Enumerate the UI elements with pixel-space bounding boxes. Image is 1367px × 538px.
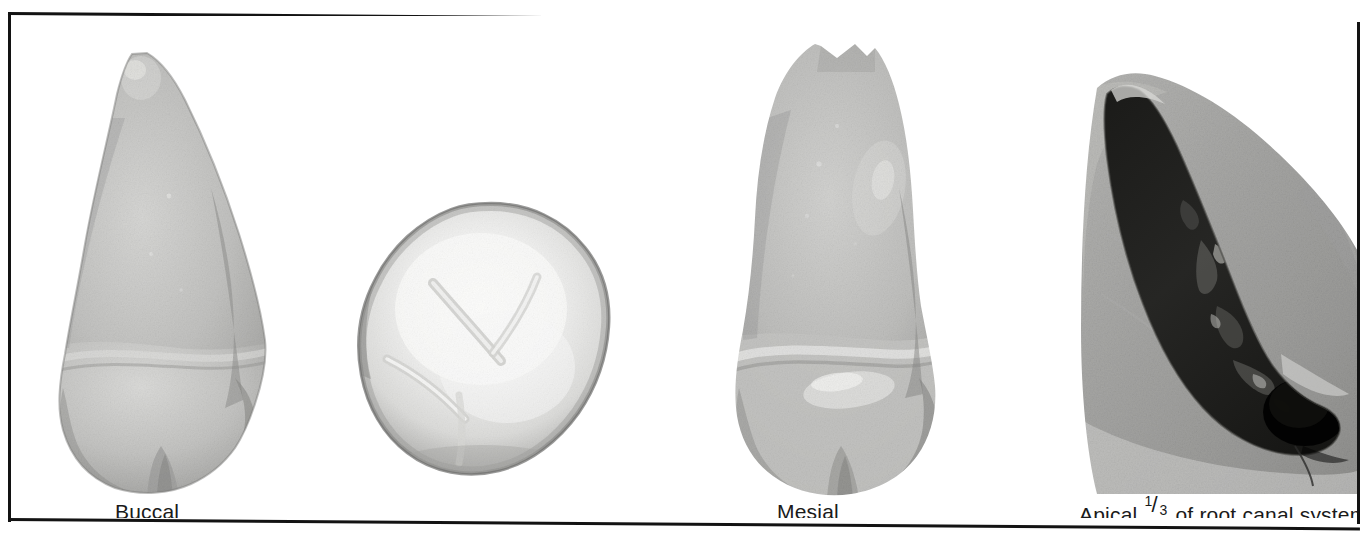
fraction-slash: /	[1151, 494, 1157, 516]
figure-content-area: Buccal	[11, 16, 1357, 518]
caption-mesial: Mesial	[777, 501, 839, 518]
frame-border-bottom	[8, 518, 1360, 530]
tooth-photo-buccal	[29, 48, 297, 496]
frame-border-right	[1357, 22, 1360, 524]
tooth-photo-apical-root-canal	[1067, 54, 1357, 494]
caption-apical-suffix: of root canal system	[1169, 503, 1357, 518]
fraction-denominator: 3	[1159, 503, 1167, 517]
caption-apical-root-canal: Apical 1/3 of root canal system	[1079, 501, 1357, 518]
figure-plate: Buccal	[0, 0, 1367, 538]
fraction-one-third: 1/3	[1143, 501, 1169, 518]
caption-apical-prefix: Apical	[1079, 503, 1143, 518]
caption-buccal: Buccal	[115, 501, 179, 518]
tooth-photo-mesial	[709, 38, 977, 498]
tooth-photo-occlusal	[341, 191, 633, 481]
